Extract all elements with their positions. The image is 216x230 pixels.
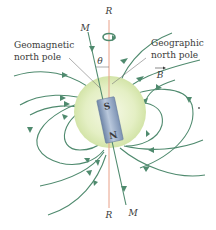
vector-arrow-tip bbox=[163, 67, 166, 70]
field-line bbox=[120, 148, 205, 176]
rotation-axis-bottom-label: R bbox=[105, 210, 113, 220]
magnetic-axis-top-label: M bbox=[79, 23, 90, 33]
geomagnetic-pointer bbox=[69, 58, 100, 88]
geographic-label-line2: north pole bbox=[151, 50, 198, 60]
field-vector-label: B bbox=[156, 70, 164, 80]
magnetic-axis-arrow-top bbox=[89, 46, 95, 52]
earth-magnetic-field-diagram: S N R R M M θ Geomagnetic north pole Geo… bbox=[0, 0, 216, 230]
magnetic-axis-bottom-label: M bbox=[127, 208, 138, 218]
geographic-label-line1: Geographic bbox=[151, 38, 204, 48]
rotation-axis-top-label: R bbox=[105, 6, 113, 16]
dot-marker bbox=[198, 107, 200, 109]
magnetic-axis-arrow-bottom bbox=[121, 186, 127, 192]
geomagnetic-label-line2: north pole bbox=[14, 52, 61, 62]
angle-theta-label: θ bbox=[97, 56, 103, 66]
geomagnetic-label-line1: Geomagnetic bbox=[14, 40, 74, 50]
